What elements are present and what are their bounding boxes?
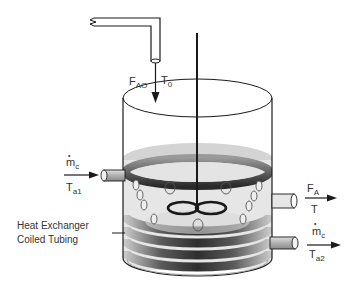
label-coolant-in-flow: mc	[66, 156, 79, 171]
product-outlet-arrow	[305, 195, 337, 202]
label-coolant-out-temp: Ta2	[309, 248, 325, 263]
product-outlet-pipe	[272, 194, 297, 208]
cstr-diagram: FAO T0 • mc Ta1 Heat Exchanger Coiled Tu…	[0, 0, 355, 288]
coolant-inlet-pipe	[101, 170, 125, 181]
label-outlet-temp: T	[311, 203, 318, 215]
label-coolant-out-flow: mc	[312, 225, 325, 240]
label-feed-temp: T0	[161, 74, 173, 89]
feed-pipe	[90, 18, 160, 63]
coolant-outlet-pipe	[270, 237, 298, 249]
label-coolant-in-temp: Ta1	[66, 181, 82, 196]
label-heat-exchanger-line2: Coiled Tubing	[17, 234, 78, 245]
label-feed-flow: FAO	[129, 75, 147, 90]
label-outlet-flow: FA	[307, 182, 320, 197]
label-heat-exchanger-line1: Heat Exchanger	[17, 220, 89, 231]
coolant-inlet-arrow	[64, 172, 99, 179]
